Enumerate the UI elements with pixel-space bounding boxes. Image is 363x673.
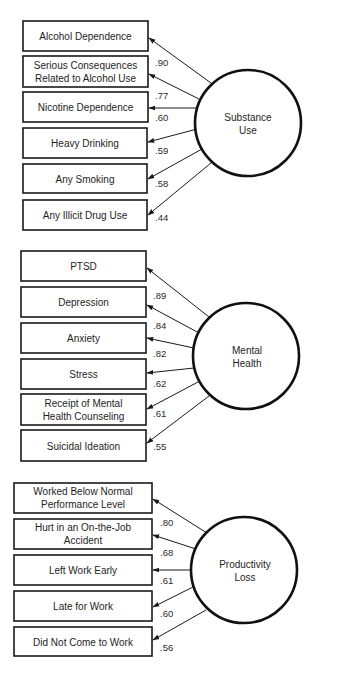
indicator-box-stress: Stress: [21, 359, 146, 389]
factor-label-line2: Use: [239, 125, 257, 136]
factor-group-productivity-loss: Worked Below Normal Performance Level Hu…: [14, 483, 297, 656]
loading-value: .89: [153, 290, 166, 301]
indicator-label: Any Illicit Drug Use: [43, 210, 128, 221]
loading-value: .55: [153, 441, 166, 452]
indicator-box-left-work-early: Left Work Early: [14, 555, 152, 585]
latent-factor-substance-use: Substance Use: [195, 70, 301, 176]
loading-value: .82: [153, 348, 166, 359]
indicator-label-line1: Hurt in an On-the-Job: [35, 522, 132, 533]
loading-value: .90: [155, 57, 168, 68]
arrow-icon: [147, 368, 194, 373]
indicator-label: Suicidal Ideation: [47, 441, 120, 452]
indicator-label: Stress: [69, 369, 97, 380]
loading-value: .44: [155, 212, 168, 223]
indicator-label-line1: Worked Below Normal: [33, 486, 132, 497]
factor-group-mental-health: PTSD Depression Anxiety Stress Receipt o…: [21, 251, 299, 461]
indicator-box-nicotine-dependence: Nicotine Dependence: [23, 92, 148, 122]
factor-label-line1: Productivity: [219, 559, 271, 570]
indicator-box-ptsd: PTSD: [21, 251, 146, 281]
arrow-icon: [147, 338, 194, 348]
indicator-label: Did Not Come to Work: [33, 637, 134, 648]
latent-factor-mental-health: Mental Health: [193, 303, 299, 409]
indicator-label-line2: Related to Alcohol Use: [35, 73, 137, 84]
loading-value: .61: [160, 575, 173, 586]
indicator-box-hurt-on-the-job: Hurt in an On-the-Job Accident: [14, 519, 152, 549]
indicator-box-worked-below-normal: Worked Below Normal Performance Level: [14, 483, 152, 513]
indicator-box-late-for-work: Late for Work: [14, 591, 152, 621]
factor-label-line1: Substance: [224, 112, 272, 123]
loading-value: .60: [155, 112, 168, 123]
indicator-label: Late for Work: [53, 601, 114, 612]
indicator-box-heavy-drinking: Heavy Drinking: [23, 128, 147, 158]
indicator-label-line2: Accident: [64, 535, 103, 546]
factor-loading-diagram: Alcohol Dependence Serious Consequences …: [0, 0, 363, 673]
latent-factor-productivity-loss: Productivity Loss: [191, 517, 297, 623]
indicator-box-did-not-come-to-work: Did Not Come to Work: [14, 627, 152, 656]
indicator-label-line2: Performance Level: [41, 499, 125, 510]
indicator-box-anxiety: Anxiety: [21, 323, 146, 353]
factor-group-substance-use: Alcohol Dependence Serious Consequences …: [23, 21, 301, 230]
indicator-label: PTSD: [70, 261, 97, 272]
indicator-box-depression: Depression: [21, 287, 146, 317]
indicator-label-line2: Health Counseling: [43, 411, 125, 422]
indicator-box-alcohol-dependence: Alcohol Dependence: [23, 21, 148, 51]
indicator-label: Alcohol Dependence: [39, 31, 132, 42]
indicator-label: Heavy Drinking: [51, 138, 119, 149]
indicator-label: Any Smoking: [56, 174, 115, 185]
indicator-box-suicidal-ideation: Suicidal Ideation: [21, 430, 146, 461]
arrow-icon: [153, 587, 193, 607]
loading-value: .80: [160, 517, 173, 528]
arrow-icon: [148, 163, 211, 215]
loading-value: .60: [160, 608, 173, 619]
indicator-label: Depression: [58, 297, 109, 308]
indicator-box-serious-consequences: Serious Consequences Related to Alcohol …: [23, 56, 148, 87]
indicator-label: Left Work Early: [49, 565, 117, 576]
loading-value: .77: [155, 90, 168, 101]
indicator-label: Nicotine Dependence: [38, 102, 134, 113]
loading-value: .84: [153, 320, 166, 331]
factor-label-line1: Mental: [232, 345, 262, 356]
loading-value: .68: [160, 547, 173, 558]
indicator-box-mental-health-counseling: Receipt of Mental Health Counseling: [21, 394, 146, 425]
factor-label-line2: Health: [233, 358, 262, 369]
loading-value: .59: [155, 145, 168, 156]
indicator-label-line1: Receipt of Mental: [45, 398, 123, 409]
indicator-label-line1: Serious Consequences: [34, 60, 137, 71]
indicator-box-any-illicit-drug-use: Any Illicit Drug Use: [23, 200, 147, 230]
loading-value: .56: [160, 642, 173, 653]
indicator-box-any-smoking: Any Smoking: [23, 164, 147, 193]
loading-value: .58: [155, 178, 168, 189]
loading-value: .62: [153, 378, 166, 389]
indicator-label: Anxiety: [67, 333, 100, 344]
loading-value: .61: [153, 408, 166, 419]
arrow-icon: [147, 396, 209, 443]
arrow-icon: [148, 129, 197, 142]
factor-label-line2: Loss: [234, 572, 255, 583]
